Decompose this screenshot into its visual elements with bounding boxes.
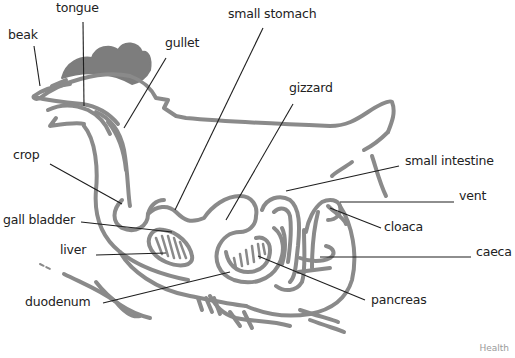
label-crop: crop [13, 149, 40, 162]
label-duodenum: duodenum [25, 296, 91, 309]
label-vent: vent [459, 190, 486, 203]
label-gizzard: gizzard [289, 82, 333, 95]
label-gall-bladder: gall bladder [3, 214, 75, 227]
label-small-intestine: small intestine [405, 155, 494, 168]
image-credit: Health [479, 343, 509, 353]
label-beak: beak [8, 29, 38, 42]
label-pancreas: pancreas [371, 294, 427, 307]
label-caeca: caeca [476, 246, 512, 259]
label-cloaca: cloaca [384, 221, 423, 234]
label-liver: liver [60, 244, 86, 257]
label-small-stomach: small stomach [228, 8, 316, 21]
label-gullet: gullet [165, 37, 199, 50]
label-tongue: tongue [56, 2, 99, 15]
chicken-digestive-diagram: beak tongue gullet small stomach gizzard… [0, 0, 515, 358]
